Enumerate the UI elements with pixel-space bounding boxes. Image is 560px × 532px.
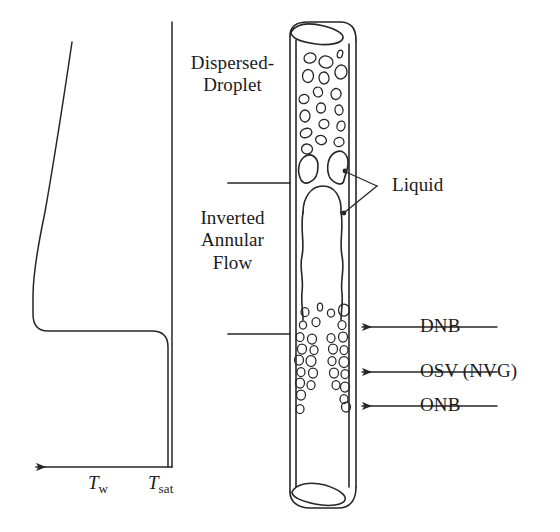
bubble	[312, 318, 320, 327]
bubble	[328, 357, 336, 366]
liquid-leader-dot-upper	[343, 169, 348, 174]
liquid-ligament-right	[328, 151, 348, 184]
droplet	[314, 134, 327, 146]
droplet	[316, 103, 326, 114]
droplet	[301, 143, 314, 155]
bubble	[296, 378, 305, 388]
droplet	[336, 120, 346, 132]
axis-subscript: w	[99, 481, 109, 496]
liquid-ligament-left	[299, 155, 318, 183]
droplet	[298, 93, 311, 105]
droplet	[330, 88, 342, 101]
axis-symbol: T	[148, 472, 159, 493]
droplet	[318, 118, 330, 130]
bubble	[297, 390, 306, 400]
bubble	[329, 344, 338, 354]
bubble	[309, 368, 318, 378]
bubble	[310, 346, 318, 355]
bubble	[341, 370, 349, 379]
droplet	[334, 64, 348, 80]
bubble	[338, 321, 346, 330]
callout-label-osv-nvg: OSV (NVG)	[420, 360, 517, 382]
bubble	[327, 334, 335, 343]
wall-temperature-curve	[33, 42, 168, 467]
droplet	[302, 69, 314, 83]
bubble	[339, 332, 348, 342]
axis-label-saturation-temperature: Tsat	[148, 472, 174, 496]
regime-line: Dispersed-	[180, 52, 285, 74]
bubble	[298, 344, 307, 354]
liquid-leader-dot-lower	[342, 211, 347, 216]
dispersed-droplet-group	[298, 49, 349, 154]
bubble	[340, 346, 348, 355]
bubble	[296, 405, 304, 414]
axis-label-wall-temperature: Tw	[88, 472, 108, 496]
bubble	[297, 368, 305, 377]
callout-label-liquid: Liquid	[392, 174, 443, 196]
regime-line: Droplet	[180, 74, 285, 96]
tube-bottom-ellipse	[292, 483, 345, 505]
liquid-leader-upper	[346, 172, 377, 186]
bubble	[306, 356, 316, 367]
bubble	[341, 382, 350, 392]
bubble-group-right-wall	[327, 332, 351, 412]
regime-line: Annular	[180, 229, 285, 251]
regime-line: Flow	[180, 252, 285, 274]
liquid-core-left-edge	[301, 212, 303, 320]
axis-subscript: sat	[159, 481, 174, 496]
bubble	[317, 303, 322, 311]
droplet	[333, 136, 345, 147]
bubble	[308, 334, 317, 344]
droplet	[334, 104, 344, 115]
flow-boiling-regime-figure: Dispersed- Droplet Inverted Annular Flow…	[0, 0, 560, 532]
axis-symbol: T	[88, 472, 99, 493]
droplet	[318, 71, 330, 84]
droplet	[318, 55, 334, 69]
bubble	[296, 333, 304, 342]
bubble	[327, 309, 334, 317]
bubble	[299, 321, 306, 329]
droplet	[303, 52, 317, 64]
bubble	[307, 381, 315, 390]
bubble	[339, 357, 349, 368]
liquid-column-dome	[303, 186, 341, 213]
callout-label-onb: ONB	[420, 394, 460, 416]
droplet	[312, 86, 324, 98]
regime-label-dispersed-droplet: Dispersed- Droplet	[180, 52, 285, 97]
regime-line: Inverted	[180, 207, 285, 229]
bubble	[330, 368, 339, 378]
tube-top-ellipse	[291, 24, 343, 45]
droplet	[299, 127, 313, 140]
droplet	[336, 49, 343, 58]
regime-label-inverted-annular-flow: Inverted Annular Flow	[180, 207, 285, 274]
callout-label-dnb: DNB	[420, 315, 460, 337]
bubble-group-left-wall	[295, 333, 319, 414]
bubble	[339, 304, 350, 316]
bubble	[332, 381, 340, 390]
droplet	[300, 110, 311, 123]
